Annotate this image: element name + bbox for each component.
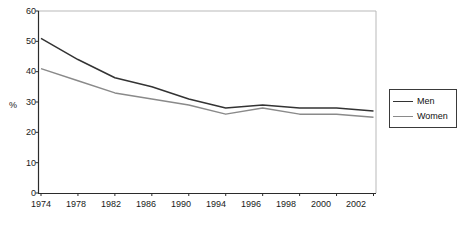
legend-entry-women: Women (393, 109, 448, 123)
legend-label-men: Men (417, 96, 435, 106)
legend-swatch-men-icon (393, 101, 413, 102)
series-line-women (41, 69, 374, 118)
series-line-men (41, 38, 374, 111)
legend: Men Women (389, 89, 457, 128)
legend-swatch-women-icon (393, 116, 413, 117)
legend-label-women: Women (417, 111, 448, 121)
line-chart: % 60 50 40 30 20 10 0 1974 1978 1982 198… (0, 0, 463, 229)
legend-entry-men: Men (393, 94, 435, 108)
